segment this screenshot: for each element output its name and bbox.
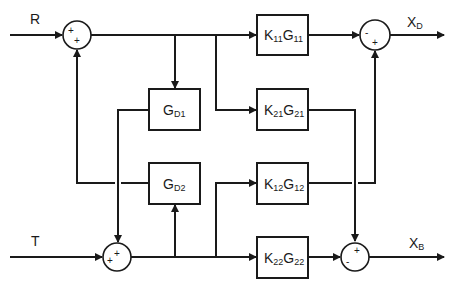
- block-gd2: GD2: [149, 163, 200, 204]
- block-k11g11: K11G11: [257, 15, 308, 55]
- sum4-sign-left: -: [346, 256, 349, 267]
- block-gd1: GD1: [149, 89, 200, 130]
- input-r-label: R: [30, 11, 40, 27]
- output-xd-label: XD: [407, 14, 423, 31]
- sum3-sign-bottom: +: [372, 37, 378, 48]
- sum4-sign-top: +: [354, 245, 360, 256]
- branch-to-k12g12: [216, 183, 256, 257]
- block-diagram: R + + K11G11 - + XD GD1 K21G21: [0, 0, 455, 286]
- block-k12g12: K12G12: [257, 163, 308, 204]
- summing-junction-2: + +: [103, 243, 131, 271]
- input-t-label: T: [31, 233, 40, 249]
- k12g12-to-sum3: [358, 51, 375, 183]
- summing-junction-1: + +: [63, 21, 91, 49]
- gd1-to-sum2: [118, 110, 149, 242]
- block-k22g22: K22G22: [257, 237, 308, 278]
- sum2-sign-top: +: [114, 248, 120, 259]
- summing-junction-4: + -: [341, 243, 369, 271]
- input-t-signal: T: [10, 233, 102, 257]
- summing-junction-3: - +: [360, 20, 390, 50]
- gd2-main: G: [163, 176, 174, 192]
- k11-gsub: 11: [294, 34, 303, 44]
- branch-to-k21g21: [216, 35, 256, 110]
- output-xb-label: XB: [409, 235, 424, 252]
- k21g21-to-sum4: [308, 110, 355, 241]
- gd2-sub: D2: [174, 183, 186, 193]
- input-r-signal: R: [10, 11, 62, 35]
- block-k21g21: K21G21: [257, 89, 308, 130]
- sum2-sign-left: +: [107, 255, 113, 266]
- gd1-main: G: [163, 102, 174, 118]
- sum3-sign-left: -: [365, 27, 368, 38]
- gd2-to-sum1: [77, 50, 115, 183]
- k11-g: G: [283, 27, 294, 43]
- k11-ksub: 11: [273, 34, 282, 44]
- gd1-sub: D1: [174, 109, 186, 119]
- sum1-sign-bottom: +: [74, 35, 80, 46]
